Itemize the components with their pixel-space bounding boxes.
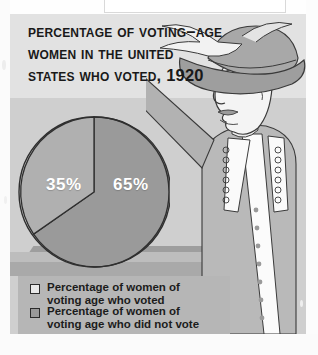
legend-swatch-not-voted-icon <box>30 308 40 318</box>
paper-bottom-margin <box>0 334 318 355</box>
pie-label-not-voted: 65% <box>113 175 149 195</box>
paper-speck <box>300 300 303 307</box>
legend-label-voted: Percentage of women of voting age who vo… <box>47 281 180 306</box>
figure-page: Percentage of Voting–Age Women in the Un… <box>0 0 318 355</box>
legend-swatch-voted-icon <box>30 284 40 294</box>
pie-label-voted: 35% <box>46 175 82 195</box>
legend-label-not-voted: Percentage of women of voting age who di… <box>47 305 199 330</box>
paper-left-margin <box>0 0 10 355</box>
paper-speck <box>2 60 6 70</box>
chart-legend: Percentage of women of voting age who vo… <box>18 276 230 334</box>
legend-item-voted: Percentage of women of voting age who vo… <box>30 281 180 306</box>
paper-right-margin <box>306 0 318 355</box>
paper-speck <box>4 196 7 204</box>
title-line-3: States Who Voted, 1920 <box>28 64 228 86</box>
paper-top-box-edge <box>104 0 286 13</box>
title-line-1: Percentage of Voting–Age <box>28 20 228 42</box>
title-line-2: Women in the United <box>28 42 228 64</box>
legend-item-not-voted: Percentage of women of voting age who di… <box>30 305 199 330</box>
page-title: Percentage of Voting–Age Women in the Un… <box>28 20 228 86</box>
